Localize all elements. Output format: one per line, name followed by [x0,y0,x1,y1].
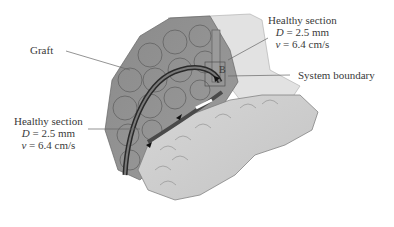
healthy-left-diameter: D = 2.5 mm [14,127,83,139]
point-b-label: B [219,64,226,76]
healthy-top-diameter: D = 2.5 mm [268,26,337,38]
healthy-left-title: Healthy section [14,115,83,127]
system-boundary-label: System boundary [298,69,375,81]
healthy-top-velocity: v = 6.4 cm/s [268,38,337,50]
healthy-left-velocity: v = 6.4 cm/s [14,139,83,151]
graft-leader-line [66,51,130,70]
healthy-section-left-label: Healthy section D = 2.5 mm v = 6.4 cm/s [14,115,83,151]
healthy-section-top-label: Healthy section D = 2.5 mm v = 6.4 cm/s [268,14,337,50]
graft-label: Graft [30,44,53,56]
healthy-top-title: Healthy section [268,14,337,26]
